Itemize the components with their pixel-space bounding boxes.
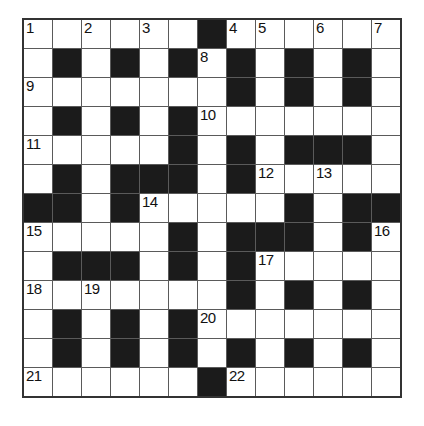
white-cell[interactable]	[256, 368, 284, 396]
white-cell[interactable]: 8	[198, 49, 226, 77]
white-cell[interactable]	[372, 310, 400, 338]
white-cell[interactable]	[140, 252, 168, 280]
white-cell[interactable]	[372, 107, 400, 135]
white-cell[interactable]	[256, 107, 284, 135]
white-cell[interactable]	[198, 223, 226, 251]
white-cell[interactable]	[82, 49, 110, 77]
white-cell[interactable]: 12	[256, 165, 284, 193]
white-cell[interactable]	[169, 281, 197, 309]
white-cell[interactable]	[343, 20, 371, 48]
white-cell[interactable]: 3	[140, 20, 168, 48]
white-cell[interactable]	[314, 194, 342, 222]
white-cell[interactable]	[256, 49, 284, 77]
white-cell[interactable]	[198, 78, 226, 106]
white-cell[interactable]	[198, 194, 226, 222]
white-cell[interactable]	[24, 49, 52, 77]
white-cell[interactable]	[343, 252, 371, 280]
white-cell[interactable]: 19	[82, 281, 110, 309]
white-cell[interactable]	[111, 136, 139, 164]
white-cell[interactable]	[227, 310, 255, 338]
white-cell[interactable]	[198, 281, 226, 309]
white-cell[interactable]	[198, 165, 226, 193]
white-cell[interactable]	[343, 165, 371, 193]
white-cell[interactable]	[285, 165, 313, 193]
white-cell[interactable]	[82, 165, 110, 193]
white-cell[interactable]	[140, 281, 168, 309]
white-cell[interactable]	[140, 339, 168, 367]
white-cell[interactable]: 9	[24, 78, 52, 106]
white-cell[interactable]	[256, 136, 284, 164]
white-cell[interactable]: 14	[140, 194, 168, 222]
white-cell[interactable]	[314, 339, 342, 367]
white-cell[interactable]: 2	[82, 20, 110, 48]
white-cell[interactable]	[82, 136, 110, 164]
white-cell[interactable]	[53, 368, 81, 396]
white-cell[interactable]	[314, 252, 342, 280]
white-cell[interactable]	[256, 310, 284, 338]
white-cell[interactable]	[111, 281, 139, 309]
white-cell[interactable]	[169, 368, 197, 396]
white-cell[interactable]: 7	[372, 20, 400, 48]
white-cell[interactable]	[285, 368, 313, 396]
white-cell[interactable]	[53, 281, 81, 309]
white-cell[interactable]	[372, 252, 400, 280]
white-cell[interactable]	[314, 281, 342, 309]
white-cell[interactable]	[372, 49, 400, 77]
white-cell[interactable]	[314, 78, 342, 106]
white-cell[interactable]	[111, 78, 139, 106]
white-cell[interactable]	[140, 49, 168, 77]
white-cell[interactable]	[256, 339, 284, 367]
white-cell[interactable]	[256, 194, 284, 222]
white-cell[interactable]	[82, 310, 110, 338]
white-cell[interactable]	[24, 339, 52, 367]
white-cell[interactable]	[24, 310, 52, 338]
white-cell[interactable]	[111, 223, 139, 251]
white-cell[interactable]	[82, 78, 110, 106]
white-cell[interactable]	[372, 368, 400, 396]
white-cell[interactable]: 21	[24, 368, 52, 396]
white-cell[interactable]	[140, 310, 168, 338]
white-cell[interactable]	[169, 78, 197, 106]
white-cell[interactable]	[82, 223, 110, 251]
white-cell[interactable]	[140, 78, 168, 106]
white-cell[interactable]	[343, 310, 371, 338]
white-cell[interactable]	[24, 107, 52, 135]
white-cell[interactable]	[198, 136, 226, 164]
white-cell[interactable]	[53, 78, 81, 106]
white-cell[interactable]	[256, 281, 284, 309]
white-cell[interactable]: 10	[198, 107, 226, 135]
white-cell[interactable]: 6	[314, 20, 342, 48]
white-cell[interactable]	[285, 20, 313, 48]
white-cell[interactable]	[314, 223, 342, 251]
white-cell[interactable]	[140, 223, 168, 251]
white-cell[interactable]	[372, 165, 400, 193]
white-cell[interactable]	[198, 339, 226, 367]
white-cell[interactable]	[227, 194, 255, 222]
white-cell[interactable]	[372, 281, 400, 309]
white-cell[interactable]	[314, 49, 342, 77]
white-cell[interactable]: 15	[24, 223, 52, 251]
white-cell[interactable]	[140, 107, 168, 135]
white-cell[interactable]	[314, 368, 342, 396]
white-cell[interactable]: 5	[256, 20, 284, 48]
white-cell[interactable]: 4	[227, 20, 255, 48]
white-cell[interactable]	[285, 310, 313, 338]
white-cell[interactable]	[343, 107, 371, 135]
white-cell[interactable]	[256, 78, 284, 106]
white-cell[interactable]	[285, 107, 313, 135]
white-cell[interactable]: 20	[198, 310, 226, 338]
white-cell[interactable]	[314, 107, 342, 135]
white-cell[interactable]	[372, 78, 400, 106]
white-cell[interactable]: 13	[314, 165, 342, 193]
white-cell[interactable]	[140, 368, 168, 396]
white-cell[interactable]	[24, 165, 52, 193]
white-cell[interactable]: 16	[372, 223, 400, 251]
white-cell[interactable]	[227, 107, 255, 135]
white-cell[interactable]	[53, 20, 81, 48]
white-cell[interactable]	[372, 136, 400, 164]
white-cell[interactable]	[24, 252, 52, 280]
white-cell[interactable]	[111, 20, 139, 48]
white-cell[interactable]	[372, 339, 400, 367]
white-cell[interactable]: 11	[24, 136, 52, 164]
white-cell[interactable]	[314, 310, 342, 338]
